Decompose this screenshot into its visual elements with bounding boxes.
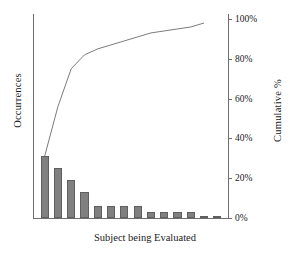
y-axis-right-title-text: Cumulative %: [272, 79, 283, 142]
cumulative-polyline: [45, 23, 204, 156]
pareto-chart: Occurrences Cumulative % Subject being E…: [0, 0, 290, 257]
y-axis-left-title-text: Occurrences: [12, 73, 23, 128]
right-axis-tick-label: 100%: [235, 14, 257, 24]
right-axis-tick-label: 20%: [235, 173, 252, 183]
cumulative-line: [33, 14, 229, 219]
y-axis-left-title: Occurrences: [6, 0, 28, 200]
right-axis-tick-label: 0%: [235, 213, 248, 223]
y-axis-right-title: Cumulative %: [266, 10, 288, 210]
plot-area: 0%20%40%60%80%100%: [33, 14, 229, 219]
x-axis-title: Subject being Evaluated: [0, 232, 290, 243]
right-axis-tick-label: 80%: [235, 54, 252, 64]
right-axis-tick-label: 60%: [235, 94, 252, 104]
right-axis-tick-label: 40%: [235, 133, 252, 143]
